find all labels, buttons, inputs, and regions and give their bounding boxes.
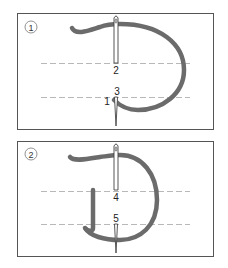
needle-upper-icon [114, 16, 118, 63]
point-label-5: 5 [113, 213, 119, 224]
point-label-1: 1 [104, 96, 110, 107]
panel-step-1: 1 2 3 1 [18, 14, 214, 130]
needle-upper-icon [114, 144, 118, 190]
step-1-label: 1 [28, 23, 33, 33]
stitch-diagram: 1 2 3 1 2 4 5 [0, 0, 228, 268]
point-label-4: 4 [113, 192, 119, 203]
point-label-2: 2 [113, 65, 119, 76]
step-2-label: 2 [28, 150, 33, 160]
panel-step-2: 2 4 5 [18, 142, 214, 257]
point-label-3: 3 [114, 86, 120, 97]
